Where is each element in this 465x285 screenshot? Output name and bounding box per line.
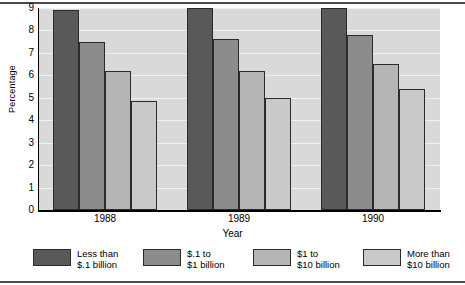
bar xyxy=(105,71,131,210)
chart-figure: Percentage 0123456789 198819891990 Year … xyxy=(0,0,465,285)
legend-swatch xyxy=(253,249,291,266)
x-axis-tick-labels: 198819891990 xyxy=(38,213,441,227)
y-tick-label: 6 xyxy=(6,70,34,80)
y-tick-label: 8 xyxy=(6,25,34,35)
bar-series-group xyxy=(38,8,440,210)
legend-label-line1: $1 to xyxy=(297,248,340,259)
plot-area xyxy=(38,8,440,210)
legend-label-line1: More than xyxy=(407,248,450,259)
bar xyxy=(239,71,265,210)
x-axis-title: Year xyxy=(0,228,465,239)
y-axis-tick-labels: 0123456789 xyxy=(0,8,34,210)
legend-item[interactable]: $1 to$10 billion xyxy=(253,248,340,270)
legend-label-line1: Less than xyxy=(77,248,118,259)
bar xyxy=(265,98,291,210)
bar xyxy=(321,8,347,210)
legend-item[interactable]: More than$10 billion xyxy=(363,248,450,270)
x-tick-label: 1989 xyxy=(228,213,250,224)
legend-item[interactable]: Less than$.1 billion xyxy=(33,248,118,270)
bar xyxy=(53,10,79,210)
x-axis-line xyxy=(38,210,441,212)
legend-label: Less than$.1 billion xyxy=(77,248,118,270)
y-tick-label: 1 xyxy=(6,183,34,193)
bar xyxy=(347,35,373,210)
legend-swatch xyxy=(143,249,181,266)
bar xyxy=(213,39,239,210)
legend-item[interactable]: $.1 to$1 billion xyxy=(143,248,225,270)
y-tick-label: 5 xyxy=(6,93,34,103)
legend-label: $1 to$10 billion xyxy=(297,248,340,270)
bar xyxy=(79,42,105,210)
bar xyxy=(187,8,213,210)
y-tick-label: 4 xyxy=(6,115,34,125)
legend-label-line2: $1 billion xyxy=(187,259,225,270)
bar xyxy=(131,101,157,210)
chart-legend: Less than$.1 billion$.1 to$1 billion$1 t… xyxy=(0,248,465,278)
legend-label-line2: $10 billion xyxy=(407,259,450,270)
legend-label: More than$10 billion xyxy=(407,248,450,270)
y-tick-label: 0 xyxy=(6,205,34,215)
legend-swatch xyxy=(363,249,401,266)
y-axis-line xyxy=(38,8,39,211)
legend-label: $.1 to$1 billion xyxy=(187,248,225,270)
legend-swatch xyxy=(33,249,71,266)
y-tick-label: 9 xyxy=(6,3,34,13)
y-tick-label: 3 xyxy=(6,138,34,148)
bottom-rule xyxy=(0,281,465,283)
bar xyxy=(373,64,399,210)
bar xyxy=(399,89,425,210)
x-tick-label: 1988 xyxy=(94,213,116,224)
legend-label-line2: $.1 billion xyxy=(77,259,118,270)
x-tick-label: 1990 xyxy=(362,213,384,224)
y-tick-label: 2 xyxy=(6,160,34,170)
legend-label-line1: $.1 to xyxy=(187,248,225,259)
legend-label-line2: $10 billion xyxy=(297,259,340,270)
top-rule xyxy=(0,2,465,4)
y-tick-label: 7 xyxy=(6,48,34,58)
